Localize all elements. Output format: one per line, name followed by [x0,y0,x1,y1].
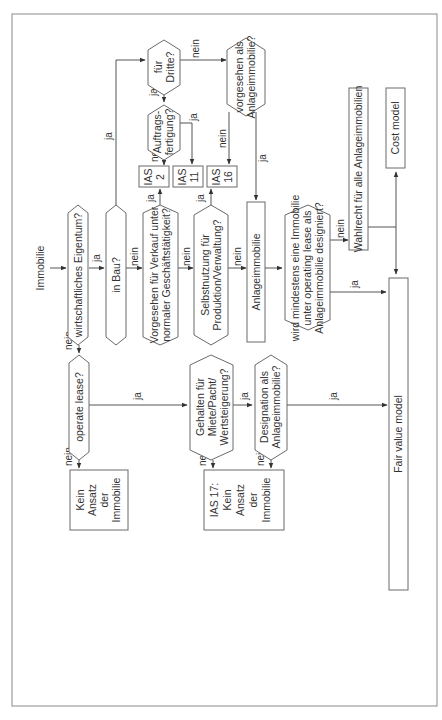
label-nein: nein [217,129,228,148]
process-ias17-kein-ansatz: IAS 17: Kein Ansatz der Immobilie [204,470,284,530]
svg-text:Produktion/Verwaltung?: Produktion/Verwaltung? [211,219,223,330]
decision-wird-mindestens: wird mindestens eine Immobilie unter ope… [285,195,330,343]
process-ias-16: IAS 16 [207,166,237,187]
svg-text:normaler Geschäftstätigkeit?: normaler Geschäftstätigkeit? [160,208,172,342]
svg-text:Kein: Kein [221,489,233,510]
svg-text:Dritte?: Dritte? [164,51,176,82]
svg-text:Wahlrecht für alle Anlageimmob: Wahlrecht für alle Anlageimmobilien [352,86,364,253]
svg-text:Ansatz: Ansatz [86,484,98,516]
process-wahlrecht: Wahlrecht für alle Anlageimmobilien [349,86,368,253]
svg-text:Immobilie: Immobilie [110,477,122,522]
label-ja: ja [328,392,339,401]
svg-text:Miete/Pacht/: Miete/Pacht/ [206,378,218,436]
process-ias-11: IAS 11 [173,166,203,187]
svg-text:IAS 17:: IAS 17: [208,483,220,517]
svg-text:Anlageimmobilie?: Anlageimmobilie? [245,35,257,118]
label-ja: ja [132,392,143,401]
label-ja: ja [349,280,360,289]
decision-vorgesehen-als: vorgesehen als Anlageimmobilie? [227,35,265,118]
process-ias-2: IAS 2 [139,166,169,187]
svg-text:Immobilie: Immobilie [260,477,272,522]
label-ja: ja [188,113,199,122]
label-nein: nein [190,39,201,58]
svg-text:operate lease?: operate lease? [73,372,85,442]
svg-text:in Bau?: in Bau? [110,257,122,293]
label-nein: nein [232,247,243,266]
svg-text:11: 11 [188,171,200,182]
svg-text:für: für [152,60,164,73]
decision-wirtschaftliches-eigentum: wirtschaftliches Eigentum? [68,205,88,345]
svg-text:fertigung?: fertigung? [163,108,175,155]
svg-text:Anlageimmobilie designiert?: Anlageimmobilie designiert? [313,202,325,333]
flowchart: ja nein nein nein nein ja ja ja nein nei… [0,0,442,720]
svg-text:wird mindestens eine Immobilie: wird mindestens eine Immobilie [289,195,301,343]
svg-text:Vorgesehen für Verkauf unter: Vorgesehen für Verkauf unter [148,206,160,343]
svg-text:IAS: IAS [210,169,222,186]
label-ja: ja [103,132,114,141]
decision-designation-als: Designation als Anlageimmobilie? [255,355,287,460]
svg-text:Anlageimmobilie: Anlageimmobilie [250,233,262,310]
svg-text:Cost model: Cost model [389,101,401,154]
label-nein: nein [181,247,192,266]
decision-operate-lease: operate lease? [69,355,89,460]
decision-in-bau: in Bau? [106,205,126,345]
svg-text:IAS: IAS [176,169,188,186]
process-anlageimmobilie: Anlageimmobilie [247,202,265,342]
label-nein: nein [129,247,140,266]
decision-auftragsfertigung: Auftrags- fertigung? [148,105,180,160]
svg-text:Fair value model: Fair value model [392,395,404,473]
svg-text:Ansatz: Ansatz [234,484,246,516]
svg-text:wirtschaftliches Eigentum?: wirtschaftliches Eigentum? [72,213,84,338]
label-ja: ja [145,194,156,203]
svg-text:vorgesehen als: vorgesehen als [233,41,245,112]
svg-text:der: der [247,492,259,508]
label-ja: ja [257,154,268,163]
svg-text:der: der [98,492,110,508]
decision-gehalten-fuer: Gehalten für Miete/Pacht/ Wertsteigerung… [190,355,233,460]
svg-text:IAS: IAS [142,169,154,186]
decision-selbstnutzung: Selbstnutzung für Produktion/Verwaltung? [194,205,228,345]
process-kein-ansatz: Kein Ansatz der Immobilie [70,470,128,530]
start-label: Immobilie [34,245,46,290]
label-ja: ja [195,194,206,203]
svg-text:2: 2 [154,174,166,180]
process-fair-value-model: Fair value model [389,278,408,590]
svg-text:Wertsteigerung?: Wertsteigerung? [218,368,230,445]
label-ja: ja [239,392,250,401]
svg-text:Anlageimmobilie?: Anlageimmobilie? [270,365,282,448]
label-nein: nein [335,219,346,238]
decision-vorgesehen-verkauf: Vorgesehen für Verkauf unter normaler Ge… [143,205,178,345]
svg-text:Kein: Kein [74,489,86,510]
process-cost-model: Cost model [386,88,405,168]
decision-fuer-dritte: für Dritte? [148,40,180,95]
svg-text:Selbstnutzung für: Selbstnutzung für [199,234,211,316]
svg-text:unter operating lease als: unter operating lease als [301,211,313,326]
svg-text:16: 16 [222,171,234,183]
label-ja: ja [91,254,102,263]
svg-text:Auftrags-: Auftrags- [151,110,163,153]
svg-text:Gehalten für: Gehalten für [194,378,206,436]
svg-text:Designation als: Designation als [258,371,270,443]
